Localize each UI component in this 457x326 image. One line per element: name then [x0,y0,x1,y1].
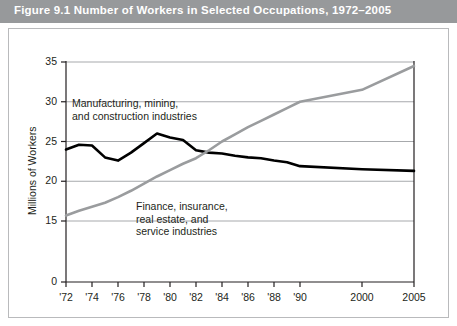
figure-title-bar: Figure 9.1 Number of Workers in Selected… [0,0,457,23]
figure-container: Figure 9.1 Number of Workers in Selected… [0,0,457,326]
figure-frame [8,28,449,318]
figure-title: Figure 9.1 Number of Workers in Selected… [14,4,391,16]
